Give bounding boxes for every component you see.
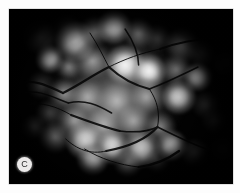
vessel-path xyxy=(68,102,111,113)
vessel-path xyxy=(149,67,198,89)
vessel-path xyxy=(63,67,109,93)
vessel-path xyxy=(109,49,160,67)
vessel-path xyxy=(23,92,69,103)
vessel-path xyxy=(158,127,207,149)
vessel-path xyxy=(20,82,63,93)
vessel-path xyxy=(90,33,109,67)
vessel-path xyxy=(109,67,149,89)
figure-panel: C xyxy=(0,0,240,193)
retinal-angiogram-image xyxy=(9,9,233,184)
vessel-path xyxy=(125,29,139,65)
panel-letter-badge: C xyxy=(17,157,32,172)
panel-letter-text: C xyxy=(21,160,28,169)
vessel-path xyxy=(160,39,214,49)
vessel-path xyxy=(149,89,158,127)
vessel-path xyxy=(139,151,180,167)
vessel-path xyxy=(71,115,120,131)
retinal-vessel-tree xyxy=(9,9,233,184)
vessel-path xyxy=(25,104,71,115)
vessel-path-group xyxy=(20,29,214,167)
